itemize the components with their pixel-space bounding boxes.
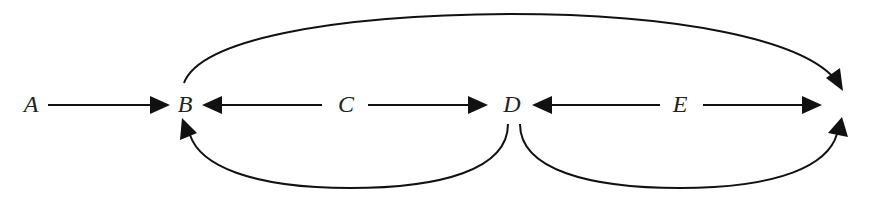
flow-diagram: A B C D E <box>0 0 875 205</box>
arrowhead-icon <box>828 117 848 137</box>
edge-e-to-f <box>703 96 822 114</box>
node-c-label: C <box>338 92 354 116</box>
arrowhead-icon <box>202 96 222 114</box>
node-e-label: E <box>673 92 688 116</box>
edge-c-to-b <box>202 96 322 114</box>
arrowhead-icon <box>532 96 552 114</box>
arrowhead-icon <box>468 96 488 114</box>
edge-b-to-f-arc <box>184 14 843 91</box>
edge-c-to-d <box>368 96 488 114</box>
edge-d-to-f-arc <box>520 117 848 188</box>
arrowhead-icon <box>802 96 822 114</box>
node-a-label: A <box>24 92 39 116</box>
node-d-label: D <box>503 92 520 116</box>
arrowhead-icon <box>150 96 170 114</box>
edge-d-to-b-arc <box>180 118 508 188</box>
node-b-label: B <box>178 92 193 116</box>
edge-e-to-d <box>532 96 660 114</box>
diagram-canvas <box>0 0 875 205</box>
edge-a-to-b <box>48 96 170 114</box>
arrowhead-icon <box>180 118 197 140</box>
